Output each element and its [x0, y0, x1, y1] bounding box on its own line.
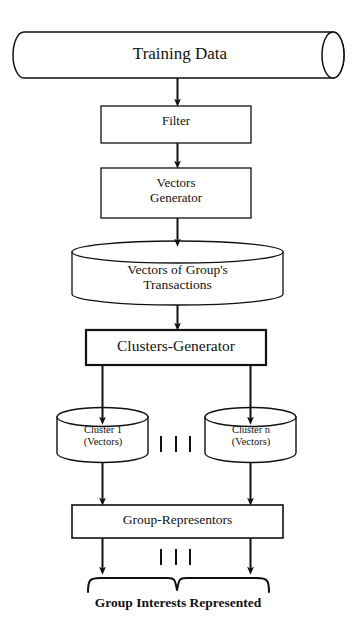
connector-arrows [103, 78, 251, 571]
clusters-generator-label: Clusters-Generator [88, 337, 264, 354]
training-data-label: Training Data [40, 44, 320, 63]
group-interests-represented-label: Group Interests Represented [28, 595, 328, 610]
ellipsis-bar [175, 549, 177, 565]
ellipsis-bar [175, 436, 177, 452]
ellipsis-bar [160, 436, 162, 452]
node-filter-box [101, 106, 251, 143]
node-cluster-1 [57, 408, 148, 463]
cluster-ellipsis-middle [160, 436, 191, 452]
cluster-n-label: Cluster n (Vectors) [206, 424, 296, 448]
flowchart-diagram: Training Data Filter Vectors Generator V… [0, 0, 357, 638]
node-vectors-generator-box [101, 168, 251, 218]
output-ellipsis-bottom [160, 549, 191, 565]
ellipsis-bar [189, 436, 191, 452]
training-data-cap [322, 32, 344, 78]
node-group-representors-box [72, 505, 283, 538]
vectors-generator-label: Vectors Generator [101, 176, 251, 205]
node-vectors-of-groups-transactions [72, 241, 283, 305]
group-representors-label: Group-Representors [76, 512, 279, 527]
ellipsis-bar [189, 549, 191, 565]
node-training-data [13, 32, 344, 78]
node-cluster-n [205, 408, 296, 463]
diagram-shapes-layer [0, 0, 357, 638]
ellipsis-bar [160, 549, 162, 565]
output-brace [88, 578, 269, 592]
node-clusters-generator-box [86, 330, 266, 365]
cluster-1-label: Cluster 1 (Vectors) [58, 424, 148, 448]
vectors-of-groups-transactions-label: Vectors of Group's Transactions [76, 262, 279, 292]
filter-label: Filter [101, 114, 251, 129]
